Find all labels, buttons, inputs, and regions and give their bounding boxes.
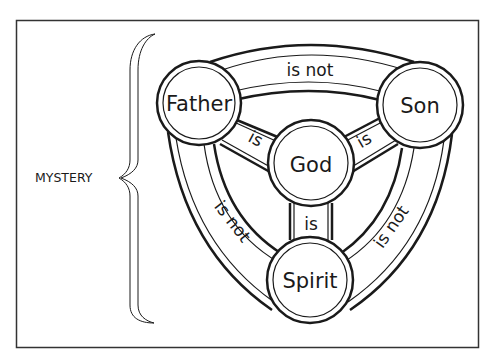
son-label: Son: [400, 94, 440, 118]
god-label: God: [290, 153, 332, 177]
curly-brace-icon: [119, 34, 155, 323]
edge-label-father-son: is not: [287, 60, 334, 80]
node-spirit: Spirit: [267, 237, 353, 323]
node-god: God: [268, 120, 354, 206]
edge-father-son-inner: [234, 91, 380, 100]
edge-label-spirit-god: is: [304, 214, 318, 234]
edge-label-father-god: is: [245, 127, 267, 151]
spirit-label: Spirit: [282, 269, 337, 293]
father-label: Father: [166, 92, 232, 116]
trinity-diagram: MYSTERY Fat: [0, 0, 496, 361]
node-son: Son: [377, 62, 463, 148]
mystery-label: MYSTERY: [35, 170, 93, 185]
node-father: Father: [157, 61, 241, 145]
